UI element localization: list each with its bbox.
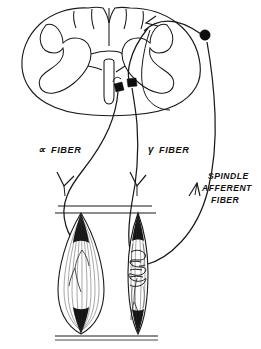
dorsal-root-ganglion <box>200 30 210 40</box>
gray-matter-butterfly <box>39 24 174 104</box>
diagram-canvas: ∝ FIBER γ FIBER SPINDLE AFFERENT FIBER <box>0 0 261 349</box>
spindle-afferent-label-line2: AFFERENT <box>201 183 252 193</box>
spinal-cord-outline <box>22 7 200 116</box>
muscle-spindle <box>128 213 148 334</box>
tendon-top <box>55 206 156 213</box>
muscle-spindle-reflex-diagram: ∝ FIBER γ FIBER SPINDLE AFFERENT FIBER <box>0 0 261 349</box>
gamma-fiber-label-text: FIBER <box>159 145 190 155</box>
spindle-afferent-label-line1: SPINDLE <box>208 171 249 181</box>
alpha-fiber-label-symbol: ∝ <box>38 144 46 155</box>
spindle-afferent-fiber-label: SPINDLE AFFERENT FIBER <box>201 171 252 205</box>
gamma-fiber-label-symbol: γ <box>148 144 155 155</box>
afferent-intracord-branch <box>128 28 170 110</box>
gamma-fiber-label: γ FIBER <box>148 144 190 155</box>
tendon-bottom <box>55 336 158 340</box>
alpha-motor-neuron-soma <box>114 82 124 92</box>
alpha-fiber-label: ∝ FIBER <box>38 144 82 155</box>
alpha-fiber-label-text: FIBER <box>51 145 82 155</box>
extrafusal-muscle-fiber <box>58 213 104 334</box>
dorsal-root-entry-fiber <box>144 16 201 34</box>
spindle-afferent-label-line3: FIBER <box>211 195 240 205</box>
